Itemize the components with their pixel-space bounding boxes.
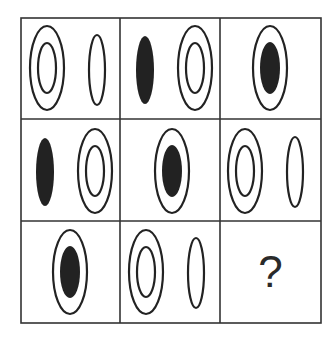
single-ellipse-icon xyxy=(287,137,303,207)
double-ring-icon xyxy=(129,230,163,314)
cell-r1c2 xyxy=(136,26,212,110)
cell-r3c1 xyxy=(53,230,87,314)
cell-r1c1 xyxy=(30,26,105,110)
cell-r3c2 xyxy=(129,230,204,314)
filled-ellipse-icon xyxy=(136,36,154,104)
missing-cell-question-mark: ? xyxy=(220,221,321,323)
double-ring-icon xyxy=(78,129,112,213)
filled-ellipse-icon xyxy=(36,138,54,206)
ring-with-filled-center-icon xyxy=(253,26,287,110)
double-ring-icon xyxy=(178,26,212,110)
double-ring-icon xyxy=(228,129,262,213)
cell-r1c3 xyxy=(253,26,287,110)
cell-r2c3 xyxy=(228,129,303,213)
ring-with-filled-center-icon xyxy=(53,230,87,314)
single-ellipse-icon xyxy=(188,238,204,308)
cell-r2c1 xyxy=(36,129,112,213)
ring-with-filled-center-icon xyxy=(155,129,189,213)
double-ring-icon xyxy=(30,26,64,110)
single-ellipse-icon xyxy=(89,35,105,105)
cell-r2c2 xyxy=(155,129,189,213)
